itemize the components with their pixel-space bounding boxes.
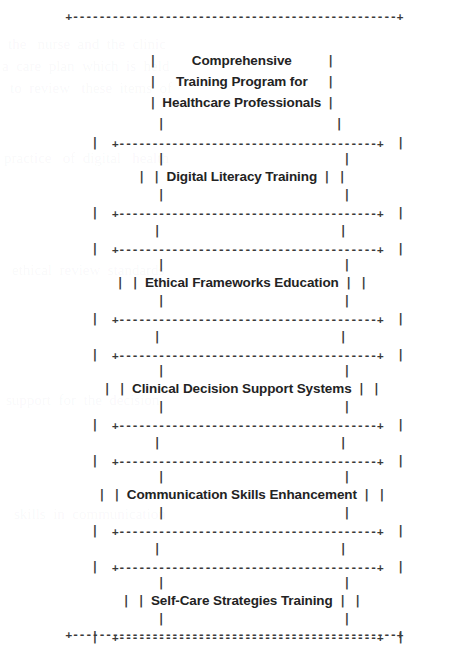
ascii-box-diagram: the nurse and the clinic a care plan whi… [0,0,469,662]
outer-box-bottom-border: +---------------------------------------… [0,624,469,646]
title-line-2-row: |Training Program for| [0,49,469,71]
outer-box-top-border: +---------------------------------------… [0,6,469,28]
module-5-bottom-border-row: | +-------------------------------------… [0,604,469,626]
title-line-1-row: |Comprehensive| [0,28,469,50]
title-line-3-row: |Healthcare Professionals| [0,70,469,92]
